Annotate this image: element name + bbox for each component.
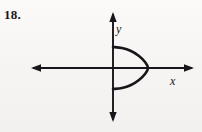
x-axis-left-arrowhead-icon — [31, 64, 41, 72]
y-axis-label: y — [115, 22, 122, 36]
figure-container: 18. y x — [0, 0, 202, 132]
coordinate-graph: y x — [0, 0, 202, 132]
y-axis-up-arrowhead-icon — [109, 12, 116, 22]
y-axis-down-arrowhead-icon — [109, 112, 116, 122]
x-axis-label: x — [169, 74, 176, 88]
x-axis-right-arrowhead-icon — [184, 64, 194, 72]
